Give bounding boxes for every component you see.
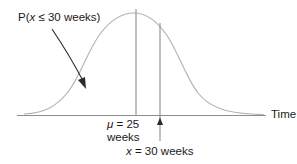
probability-label-relation: ≤ 30 weeks) — [35, 11, 100, 23]
normal-curve — [24, 13, 252, 114]
mean-unit: weeks — [107, 131, 140, 143]
x-value-rest: = 30 weeks — [132, 145, 194, 157]
probability-label-prefix: P( — [18, 11, 30, 23]
mean-label: μ = 25weeks — [107, 118, 140, 144]
callout-arrowhead-icon — [78, 77, 86, 89]
x-value-label: x = 30 weeks — [126, 145, 193, 158]
distribution-plot-svg — [0, 0, 297, 164]
time-axis-label: Time — [271, 108, 296, 121]
normal-distribution-figure: P(x ≤ 30 weeks) Time μ = 25weeks x = 30 … — [0, 0, 297, 164]
up-arrowhead-icon — [157, 118, 163, 126]
probability-label: P(x ≤ 30 weeks) — [18, 11, 100, 24]
mean-value: = 25 — [113, 118, 139, 130]
callout-arrow-curve — [52, 29, 82, 79]
right-tail-extension — [252, 114, 264, 115]
